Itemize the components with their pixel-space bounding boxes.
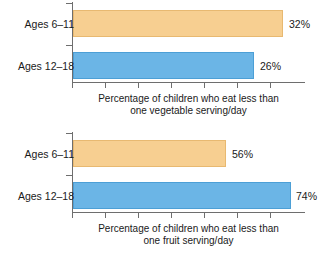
bar-ages-12-18: [73, 52, 254, 79]
x-axis-tick: [270, 83, 271, 88]
x-axis-caption-line-1: Percentage of children who eat less than: [72, 223, 305, 235]
x-axis-tick: [204, 213, 205, 218]
x-axis-tick: [138, 213, 139, 218]
category-label-ages-12-18: Ages 12–18: [18, 60, 74, 72]
x-axis-tick: [171, 83, 172, 88]
bar-ages-6-11: [73, 10, 283, 37]
x-axis-tick: [171, 213, 172, 218]
x-axis-caption: Percentage of children who eat less than…: [72, 93, 305, 116]
x-axis-tick: [138, 83, 139, 88]
y-axis-tick: [66, 45, 73, 46]
y-axis-tick: [66, 133, 73, 134]
x-axis-caption-line-1: Percentage of children who eat less than: [72, 93, 305, 105]
category-label-ages-6-11: Ages 6–11: [25, 148, 74, 160]
x-axis-tick: [270, 213, 271, 218]
value-label-ages-6-11: 56%: [232, 148, 253, 160]
x-axis-caption: Percentage of children who eat less than…: [72, 223, 305, 246]
y-axis-tick: [66, 175, 73, 176]
x-axis-tick: [204, 83, 205, 88]
x-axis-tick: [72, 83, 73, 88]
x-axis-caption-line-2: one vegetable serving/day: [72, 105, 305, 117]
bar-ages-6-11: [73, 140, 226, 167]
value-label-ages-12-18: 74%: [296, 190, 317, 202]
chart-vegetable: Ages 6–11 Ages 12–18 32% 26% Percentage …: [0, 0, 325, 122]
bar-chart-figure: Ages 6–11 Ages 12–18 32% 26% Percentage …: [0, 0, 325, 259]
category-label-ages-12-18: Ages 12–18: [18, 190, 74, 202]
x-axis-tick: [237, 83, 238, 88]
value-label-ages-6-11: 32%: [289, 18, 310, 30]
y-axis-tick: [66, 3, 73, 4]
value-label-ages-12-18: 26%: [260, 60, 281, 72]
category-label-ages-6-11: Ages 6–11: [25, 18, 74, 30]
bar-ages-12-18: [73, 182, 291, 209]
x-axis-tick: [105, 83, 106, 88]
x-axis-tick: [237, 213, 238, 218]
x-axis-tick: [72, 213, 73, 218]
chart-fruit: Ages 6–11 Ages 12–18 56% 74% Percentage …: [0, 130, 325, 259]
x-axis-tick: [105, 213, 106, 218]
x-axis-caption-line-2: one fruit serving/day: [72, 235, 305, 247]
